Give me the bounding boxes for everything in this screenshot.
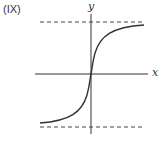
plot-area bbox=[0, 0, 165, 147]
